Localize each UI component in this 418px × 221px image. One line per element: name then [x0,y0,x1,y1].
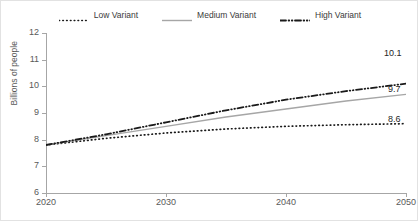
y-tick-label-8: 8 [7,135,39,144]
x-tick-mark-2050 [406,193,407,197]
plot-area [46,33,406,193]
data-label-high-variant: 10.1 [384,49,402,58]
y-tick-label-12: 12 [7,28,39,37]
series-line-medium-variant [46,94,406,145]
population-projection-chart: Low Variant Medium Variant High Variant … [0,0,418,221]
y-tick-label-6: 6 [7,188,39,197]
x-tick-label-2050: 2050 [396,198,416,207]
y-tick-mark-8 [42,140,46,141]
legend-label-low-variant: Low Variant [94,11,138,20]
series-line-low-variant [46,124,406,145]
y-axis-tick-labels: 6789101112 [1,1,39,221]
data-label-medium-variant: 9.7 [388,85,401,94]
solid-line-key [162,11,192,20]
x-tick-mark-2030 [166,193,167,197]
x-axis-line [46,193,407,194]
series-lines [46,33,406,193]
x-tick-mark-2020 [46,193,47,197]
y-tick-label-9: 9 [7,108,39,117]
y-tick-mark-9 [42,113,46,114]
y-tick-mark-11 [42,60,46,61]
x-tick-label-2040: 2040 [276,198,296,207]
x-tick-label-2020: 2020 [36,198,56,207]
y-tick-label-7: 7 [7,161,39,170]
x-tick-mark-2040 [286,193,287,197]
y-tick-label-11: 11 [7,55,39,64]
legend-item-low-variant[interactable]: Low Variant [59,11,138,20]
legend-item-medium-variant[interactable]: Medium Variant [162,11,256,20]
y-tick-mark-7 [42,166,46,167]
y-tick-label-10: 10 [7,81,39,90]
series-line-high-variant [46,84,406,145]
y-tick-mark-12 [42,33,46,34]
legend-label-medium-variant: Medium Variant [197,11,256,20]
x-tick-label-2030: 2030 [156,198,176,207]
legend-label-high-variant: High Variant [315,11,361,20]
data-label-low-variant: 8.6 [388,115,401,124]
legend-item-high-variant[interactable]: High Variant [280,11,361,20]
dotted-line-key [59,11,89,20]
dash-dot-line-key [280,11,310,20]
y-tick-mark-10 [42,86,46,87]
chart-legend: Low Variant Medium Variant High Variant [1,7,418,23]
